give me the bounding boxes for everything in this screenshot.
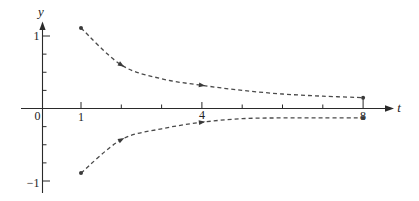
origin-label: 0	[35, 109, 41, 123]
x-tick-label-4: 4	[199, 108, 205, 122]
endpoint-dot-icon	[79, 171, 83, 175]
endpoint-dot-icon	[79, 26, 83, 30]
endpoint-dot-icon	[361, 116, 365, 120]
x-tick-label-1: 1	[78, 110, 84, 124]
direction-arrow-icon	[118, 136, 126, 143]
y-axis-label: y	[36, 4, 44, 19]
y-tick-label-1: 1	[34, 29, 40, 43]
curve-lower	[81, 118, 363, 173]
endpoint-dot-icon	[361, 96, 365, 100]
chart: y t 0 1 4 8 1 −1	[0, 0, 419, 201]
curve-upper	[81, 28, 363, 98]
y-tick-label-neg1: −1	[27, 176, 40, 190]
axes	[21, 22, 394, 194]
t-axis-label: t	[397, 100, 401, 115]
curves	[79, 26, 365, 175]
t-axis-arrow-icon	[385, 105, 394, 111]
y-axis-arrow-icon	[39, 22, 45, 31]
